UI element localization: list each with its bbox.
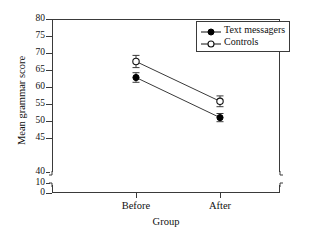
y-tick-65 bbox=[46, 70, 52, 71]
point-text-messagers-before bbox=[133, 74, 139, 80]
y-tick-50 bbox=[46, 121, 52, 122]
series-text-messagers bbox=[133, 73, 224, 122]
point-controls-before bbox=[133, 58, 139, 64]
chart-legend: Text messagers Controls bbox=[196, 21, 290, 52]
point-text-messagers-after bbox=[217, 115, 223, 121]
open-circle-marker-icon bbox=[200, 36, 222, 48]
y-tick-75 bbox=[46, 36, 52, 37]
y-tick-45 bbox=[46, 138, 52, 139]
filled-circle-marker-icon bbox=[200, 24, 222, 36]
axis-break-left-icon bbox=[48, 170, 58, 188]
y-tick-55 bbox=[46, 104, 52, 105]
legend-item-controls: Controls bbox=[200, 36, 285, 48]
legend-label-text-messagers: Text messagers bbox=[222, 25, 285, 35]
series-controls bbox=[133, 55, 224, 106]
y-tick-70 bbox=[46, 53, 52, 54]
point-controls-after bbox=[217, 98, 223, 104]
y-tick-60 bbox=[46, 87, 52, 88]
legend-label-controls: Controls bbox=[222, 37, 258, 47]
chart-figure: 80 75 70 65 60 55 50 45 40 10 0 Mean gra… bbox=[0, 0, 313, 239]
y-tick-80 bbox=[46, 19, 52, 20]
y-tick-0 bbox=[46, 193, 52, 194]
legend-item-text-messagers: Text messagers bbox=[200, 24, 285, 36]
axis-break-right-icon bbox=[274, 170, 284, 188]
